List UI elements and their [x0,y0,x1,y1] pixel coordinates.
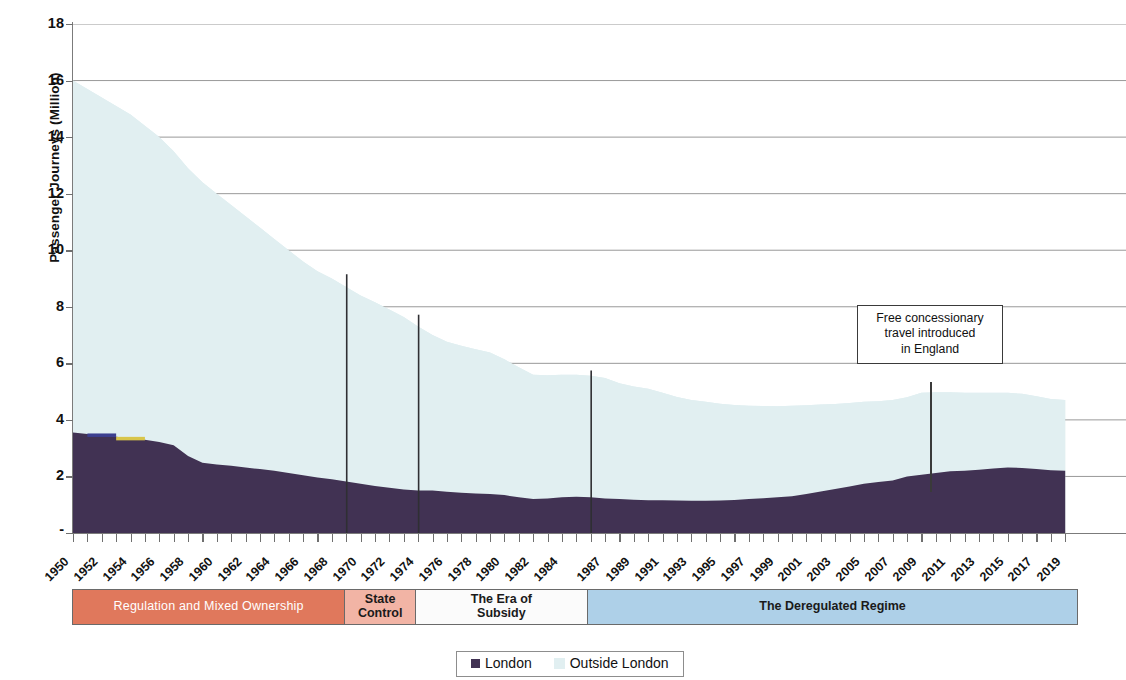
x-axis-tick [361,534,362,542]
x-axis-tick [317,534,318,542]
x-axis-tick [749,534,750,542]
y-axis-tick [66,476,73,477]
x-axis-tick [145,534,146,542]
y-axis-tick [66,194,73,195]
x-axis-tick [102,534,103,542]
chart-legend: LondonOutside London [456,651,684,677]
x-axis-tick [159,534,160,542]
x-axis-label: 2001 [775,554,805,584]
x-axis-tick [821,534,822,542]
x-axis-tick [1051,534,1052,542]
x-axis-tick [850,534,851,542]
y-axis-tick [66,307,73,308]
y-axis-label: 2 [18,468,64,483]
x-axis-label: 1956 [128,554,158,584]
x-axis-tick [260,534,261,542]
x-axis-tick [131,534,132,542]
x-axis-tick [806,534,807,542]
x-axis-tick [921,534,922,542]
x-axis-tick [950,534,951,542]
x-axis-tick [346,534,347,542]
x-axis-label: 1989 [603,554,633,584]
era-label: The Deregulated Regime [759,600,906,614]
x-axis-tick [476,534,477,542]
legend-swatch-icon [471,659,480,668]
y-axis-tick [66,363,73,364]
x-axis-tick [332,534,333,542]
y-axis-tick [66,533,73,534]
era-segment: The Era ofSubsidy [415,589,588,625]
x-axis-label: 1950 [42,554,72,584]
x-axis-label: 1980 [473,554,503,584]
x-axis-tick [303,534,304,542]
legend-item[interactable]: London [471,655,532,671]
x-axis-label: 1964 [243,554,273,584]
x-axis-tick [404,534,405,542]
x-axis-label: 1954 [100,554,130,584]
x-axis-label: 1960 [186,554,216,584]
era-segment: The Deregulated Regime [587,589,1079,625]
x-axis-tick [188,534,189,542]
x-axis-tick [116,534,117,542]
x-axis-label: 1982 [502,554,532,584]
y-axis-label: 4 [18,412,64,427]
series-sliver [116,437,145,441]
x-axis-tick [634,534,635,542]
era-label: The Era ofSubsidy [471,593,532,621]
x-axis-label: 1978 [445,554,475,584]
x-axis-tick [936,534,937,542]
x-axis-tick [864,534,865,542]
x-axis-tick [720,534,721,542]
x-axis-tick [1008,534,1009,542]
x-axis-tick [562,534,563,542]
x-axis-label: 2005 [833,554,863,584]
x-axis-tick [965,534,966,542]
x-axis-tick [648,534,649,542]
era-segment: Regulation and Mixed Ownership [72,589,345,625]
legend-item[interactable]: Outside London [554,655,669,671]
x-axis-tick [73,534,74,542]
y-axis-label: 18 [18,16,64,31]
y-axis-tick-labels: -24681012141618 [8,0,64,560]
x-axis-tick [548,534,549,542]
x-axis-tick [533,534,534,542]
x-axis-tick [663,534,664,542]
x-axis-label: 2013 [948,554,978,584]
x-axis-label: 2007 [862,554,892,584]
y-axis-tick [66,137,73,138]
x-axis-tick [202,534,203,542]
x-axis-tick [519,534,520,542]
x-axis-label: 1972 [358,554,388,584]
legend-swatch-icon [554,658,565,669]
passenger-journeys-area-chart: Passenger Journeys (Million) -2468101214… [0,0,1126,680]
x-axis-tick [217,534,218,542]
x-axis-label: 1987 [574,554,604,584]
y-axis-tick [66,24,73,25]
area-series-svg [73,24,1126,533]
legend-label: London [485,655,532,671]
x-axis-tick [231,534,232,542]
x-axis-tick [174,534,175,542]
x-axis-label: 2011 [919,555,948,584]
x-axis-label: 1993 [660,554,690,584]
x-axis-tick [878,534,879,542]
x-axis-tick [734,534,735,542]
x-axis-label: 1974 [387,554,417,584]
x-axis-tick [490,534,491,542]
x-axis-tick [1022,534,1023,542]
x-axis-tick [691,534,692,542]
annotation-line: travel introduced [862,326,998,341]
x-axis-label: 1995 [689,554,719,584]
x-axis-tick [591,534,592,542]
x-axis-tick [433,534,434,542]
x-axis-tick [763,534,764,542]
y-axis-label: 8 [18,299,64,314]
x-axis-tick [792,534,793,542]
y-axis-label: 6 [18,355,64,370]
plot-area [73,24,1126,533]
x-axis-tick [447,534,448,542]
x-axis-tick [576,534,577,542]
era-label: StateControl [358,593,402,621]
x-axis-label: 2017 [1006,554,1036,584]
x-axis-label: 1999 [747,554,777,584]
